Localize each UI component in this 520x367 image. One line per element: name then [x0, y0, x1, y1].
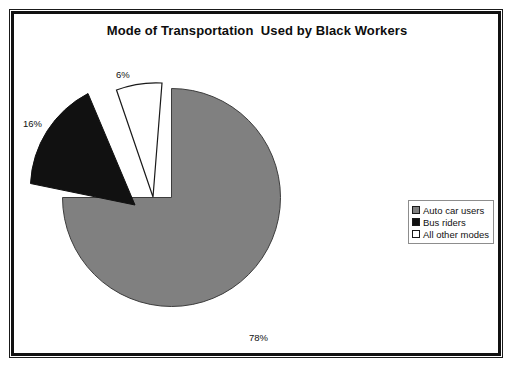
legend-swatch-all-other-modes: [412, 230, 420, 238]
pie-label-bus-riders: 16%: [23, 118, 42, 129]
legend-item-all-other-modes[interactable]: All other modes: [412, 228, 489, 240]
legend-swatch-auto-car-users: [412, 206, 420, 214]
legend-label-auto-car-users: Auto car users: [423, 205, 484, 216]
legend-swatch-bus-riders: [412, 218, 420, 226]
chart-frame: Mode of Transportation Used by Black Wor…: [9, 9, 503, 358]
pie-chart-graphic: [10, 10, 504, 359]
pie-slice-bus-riders[interactable]: [31, 94, 136, 206]
plot-area: Mode of Transportation Used by Black Wor…: [10, 10, 504, 359]
legend-item-auto-car-users[interactable]: Auto car users: [412, 204, 489, 216]
legend-label-bus-riders: Bus riders: [423, 217, 466, 228]
chart-legend: Auto car users Bus riders All other mode…: [408, 200, 494, 244]
pie-label-auto-car-users: 78%: [249, 332, 268, 343]
pie-label-all-other-modes: 6%: [116, 69, 130, 80]
legend-label-all-other-modes: All other modes: [423, 229, 489, 240]
legend-item-bus-riders[interactable]: Bus riders: [412, 216, 489, 228]
